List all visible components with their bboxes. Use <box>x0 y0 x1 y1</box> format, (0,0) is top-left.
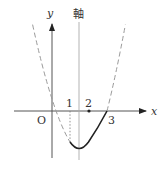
tick-label-2: 2 <box>85 97 92 110</box>
tick-label-3: 3 <box>108 114 115 127</box>
tick-label-1: 1 <box>66 97 73 110</box>
origin-label: O <box>37 114 46 127</box>
parabola-dashed-right <box>107 25 125 111</box>
parabola-diagram: y 軸 x O 1 2 3 <box>0 0 168 169</box>
x-axis-label: x <box>151 105 158 118</box>
parabola-solid-segment <box>70 111 107 149</box>
y-axis-label: y <box>46 7 54 20</box>
symmetry-axis-label: 軸 <box>73 7 84 21</box>
